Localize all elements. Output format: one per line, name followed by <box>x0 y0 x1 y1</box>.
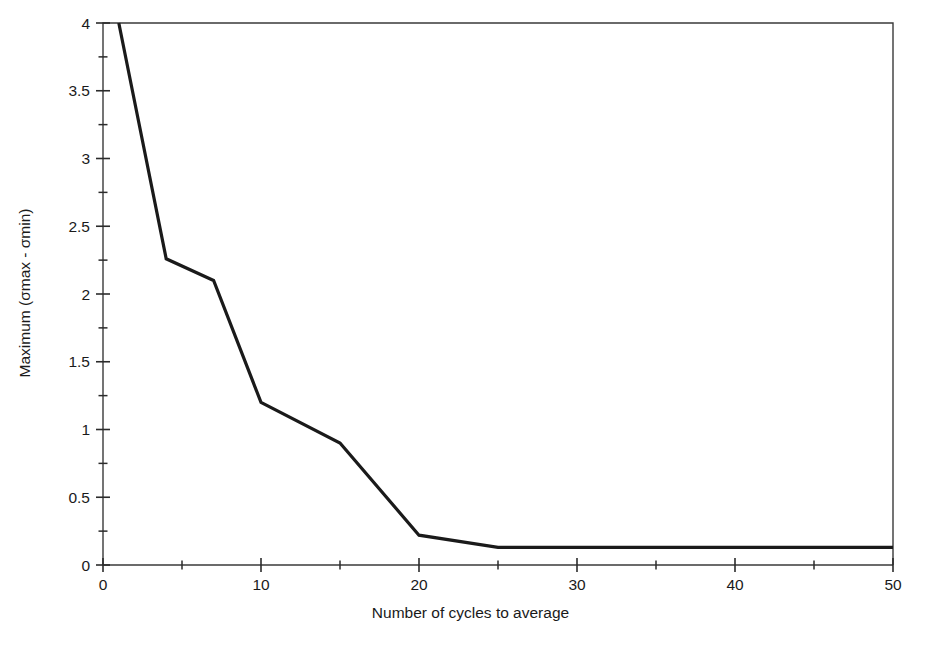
x-tick-label: 30 <box>568 576 586 593</box>
y-tick-label: 3 <box>81 150 90 167</box>
figure-container: 0102030405000.511.522.533.54 Number of c… <box>0 0 929 652</box>
y-tick-label: 2 <box>81 286 90 303</box>
line-chart: 0102030405000.511.522.533.54 <box>0 0 929 652</box>
y-tick-label: 4 <box>81 15 90 32</box>
y-tick-label: 0 <box>81 557 90 574</box>
x-axis-label: Number of cycles to average <box>0 604 929 622</box>
y-axis-label: Maximum (σmax - σmin) <box>16 23 34 563</box>
y-tick-label: 1.5 <box>68 353 90 370</box>
x-tick-label: 10 <box>252 576 270 593</box>
y-tick-label: 0.5 <box>68 489 90 506</box>
x-tick-label: 50 <box>884 576 902 593</box>
x-tick-label: 0 <box>99 576 108 593</box>
x-tick-label: 40 <box>726 576 744 593</box>
series-line <box>119 23 893 547</box>
y-tick-label: 3.5 <box>68 82 90 99</box>
x-tick-label: 20 <box>410 576 428 593</box>
axis-ticks <box>96 23 893 572</box>
axis-tick-labels: 0102030405000.511.522.533.54 <box>68 15 902 594</box>
y-tick-label: 2.5 <box>68 218 90 235</box>
data-series <box>119 23 893 547</box>
plot-frame <box>103 23 893 565</box>
y-tick-label: 1 <box>81 421 90 438</box>
